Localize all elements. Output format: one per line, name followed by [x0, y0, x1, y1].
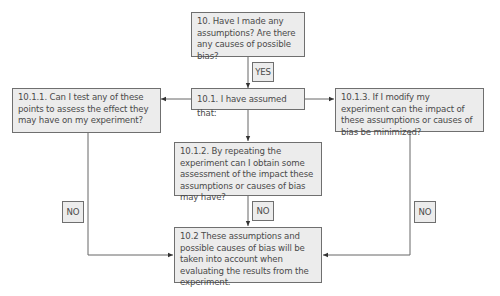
node-10-2: 10.2 These assumptions and possible caus…: [174, 227, 322, 283]
node-10-1-3: 10.1.3. If I modify my experiment can th…: [335, 88, 484, 132]
edge-label-no-left: NO: [62, 201, 84, 223]
edge-label-no-right: NO: [414, 201, 436, 223]
edge-label-no-center: NO: [252, 201, 274, 221]
node-10-1-1: 10.1.1. Can I test any of these points t…: [12, 88, 161, 133]
edge-label-yes: YES: [252, 62, 274, 82]
node-10-1-2: 10.1.2. By repeating the experiment can …: [174, 142, 322, 196]
node-10-1: 10.1. I have assumed that:: [191, 88, 305, 110]
node-10-question: 10. Have I made any assumptions? Are the…: [191, 12, 305, 57]
